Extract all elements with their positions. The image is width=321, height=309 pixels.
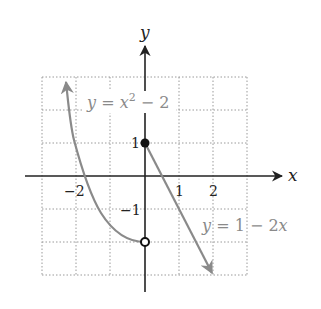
tick-x-neg2: −2 xyxy=(64,183,85,199)
x-axis-label: x xyxy=(288,165,298,185)
eq-line-label: y = 1 − 2x xyxy=(201,216,288,235)
eq2-x: x xyxy=(279,216,288,235)
y-axis-label: y xyxy=(139,22,150,42)
open-endpoint xyxy=(141,238,149,246)
tick-y-neg1: −1 xyxy=(120,202,141,218)
tick-y-1: 1 xyxy=(131,135,140,151)
eq2-mid: = 1 − 2 xyxy=(211,216,279,235)
eq1-exponent: 2 xyxy=(129,91,136,104)
piecewise-function-graph: y x −2 1 2 1 −1 y = x2 − 2 y = 1 − 2x xyxy=(0,0,321,309)
eq1-x: x xyxy=(120,93,129,112)
eq1-equals: = xyxy=(96,93,120,112)
eq1-rest: − 2 xyxy=(136,93,170,112)
tick-x-2: 2 xyxy=(209,183,218,199)
tick-x-1: 1 xyxy=(175,183,184,199)
filled-endpoint xyxy=(141,139,150,148)
eq-parabola-label: y = x2 − 2 xyxy=(86,91,169,112)
